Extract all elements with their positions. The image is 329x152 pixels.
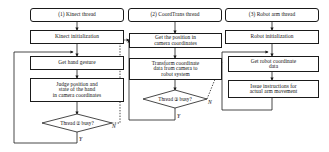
column1-header: (1) Kinect thread	[30, 8, 124, 22]
column2-step-get-position: Get the position in camera coordinates	[129, 33, 222, 48]
column1-branch-yes-label: Y	[79, 136, 82, 142]
column1-step-get-hand-gesture: Get hand gesture	[30, 56, 124, 70]
column3-step-issue-instructions: Issue instructions for actual arm moveme…	[228, 80, 319, 98]
column1-step-kinect-initialization: Kinect initialization	[30, 30, 124, 44]
connector-c2-yes-loop	[129, 40, 175, 120]
column2-step-1-label: Get the position in camera coordinates	[154, 35, 197, 46]
column1-branch-no-text: N	[112, 123, 116, 129]
column2-header: (2) CoordTrans thread	[128, 8, 222, 22]
column2-branch-yes-label: Y	[177, 113, 180, 119]
column2-branch-yes-text: Y	[177, 113, 180, 119]
column1-branch-no-label: N	[112, 123, 116, 129]
column2-step-2-label: Transform coordinate data from camera to…	[152, 61, 200, 78]
column3-step-get-robot-coordinate: Get robot coordinate data	[228, 56, 319, 72]
column1-step-1-label: Kinect initialization	[55, 34, 99, 40]
column1-header-label: (1) Kinect thread	[58, 12, 96, 18]
column2-branch-no-label: N	[208, 99, 212, 105]
column3-header: (3) Robot arm thread	[225, 8, 319, 22]
column3-header-label: (3) Robot arm thread	[249, 12, 295, 18]
column2-step-transform-coordinate: Transform coordinate data from camera to…	[129, 58, 222, 80]
decision-diamond-2	[143, 90, 207, 108]
flowchart-canvas: (1) Kinect thread Kinect initialization …	[0, 0, 329, 152]
column2-branch-no-text: N	[208, 99, 212, 105]
column3-step-robot-initialization: Robot initialization	[225, 30, 319, 44]
column2-header-label: (2) CoordTrans thread	[150, 12, 199, 18]
column1-step-2-label: Get hand gesture	[58, 60, 95, 66]
column1-step-judge-position: Judge position and state of the hand in …	[30, 78, 124, 102]
column1-branch-yes-text: Y	[79, 136, 82, 142]
column3-step-2-label: Get robot coordinate data	[251, 59, 297, 70]
decision-diamond-1	[42, 114, 112, 132]
column1-step-3-label: Judge position and state of the hand in …	[53, 82, 101, 99]
column3-step-1-label: Robot initialization	[251, 34, 294, 40]
column3-step-3-label: Issue instructions for actual arm moveme…	[250, 84, 298, 95]
